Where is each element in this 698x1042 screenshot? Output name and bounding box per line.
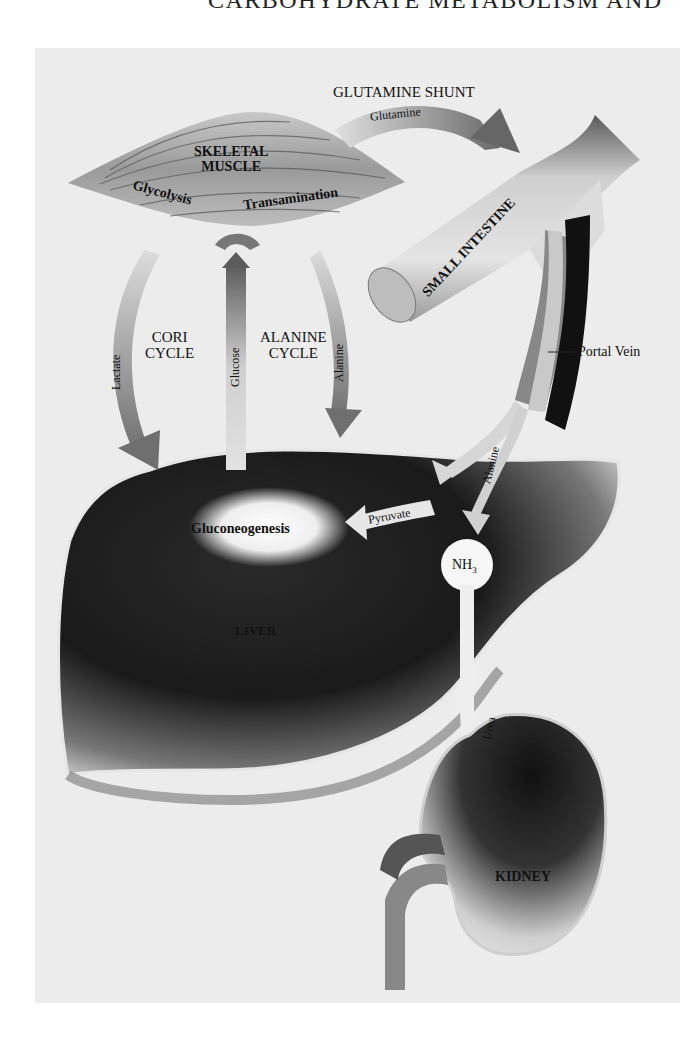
liver-label: LIVER [235,624,276,637]
alanine-muscle-label: Alanine [333,344,345,382]
glutamine-arrow [335,106,520,153]
kidney-label: KIDNEY [495,870,551,884]
skeletal-muscle-line1: SKELETAL [194,145,268,160]
skeletal-muscle-label: SKELETAL MUSCLE [194,145,268,174]
glucose-label: Glucose [229,348,241,387]
alanine-line1: ALANINE [260,330,327,346]
cori-line1: CORI [145,330,194,346]
skeletal-muscle-line2: MUSCLE [194,160,268,175]
alanine-cycle-label: ALANINE CYCLE [260,330,327,362]
nh3-label: NH3 [452,558,477,575]
glutamine-shunt-label: GLUTAMINE SHUNT [333,85,475,100]
gluconeogenesis-label: Gluconeogenesis [191,522,290,536]
metabolism-diagram [0,0,698,1042]
cori-cycle-label: CORI CYCLE [145,330,194,362]
alanine-line2: CYCLE [260,346,327,362]
nh3-text: NH [452,557,472,572]
lactate-label: Lactate [110,355,122,390]
nh3-subscript: 3 [472,565,477,575]
cori-line2: CYCLE [145,346,194,362]
portal-vein-label: Portal Vein [578,345,640,359]
